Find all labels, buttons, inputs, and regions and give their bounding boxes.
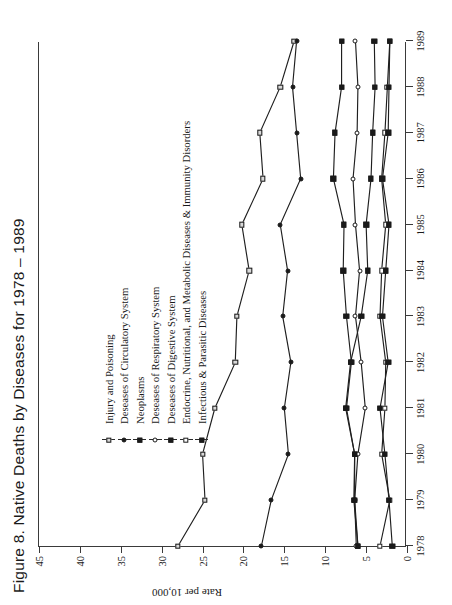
- legend-item-label: Deseases of Respiratory System: [149, 287, 161, 424]
- data-point-marker: [355, 543, 360, 548]
- legend-marker-icon: [137, 437, 142, 442]
- data-point-marker: [352, 498, 357, 503]
- data-point-marker: [278, 84, 283, 89]
- y-axis-label: Rate per 10,000: [152, 587, 222, 599]
- data-point-marker: [298, 176, 303, 181]
- data-point-marker: [352, 451, 357, 456]
- y-axis-tick: [80, 546, 81, 553]
- data-point-marker: [363, 222, 368, 227]
- data-point-marker: [348, 360, 353, 365]
- data-point-marker: [380, 176, 385, 181]
- data-point-marker: [341, 268, 346, 273]
- y-axis-tick: [162, 546, 163, 553]
- data-point-marker: [351, 497, 356, 502]
- series-line-5: [380, 41, 390, 546]
- data-point-marker: [357, 268, 362, 273]
- x-axis-tick-label: 1981: [415, 398, 426, 419]
- data-point-marker: [382, 130, 387, 135]
- data-point-marker: [382, 406, 387, 411]
- data-point-marker: [202, 497, 207, 502]
- data-point-marker: [365, 268, 370, 273]
- data-point-marker: [383, 360, 388, 365]
- data-point-marker: [260, 176, 265, 181]
- data-point-marker: [349, 360, 354, 365]
- data-point-marker: [234, 314, 239, 319]
- y-axis-tick-label: 25: [197, 556, 208, 567]
- data-point-marker: [339, 84, 344, 89]
- x-axis-tick: [406, 407, 413, 408]
- data-point-marker: [288, 360, 293, 365]
- y-axis-tick: [284, 546, 285, 553]
- x-axis-tick: [406, 86, 413, 87]
- x-axis-tick-label: 1982: [415, 352, 426, 373]
- series-line-3: [353, 41, 365, 546]
- legend-marker-icon: [106, 437, 111, 442]
- data-point-marker: [341, 222, 346, 227]
- data-point-marker: [383, 222, 388, 227]
- y-axis-tick-label: 45: [34, 556, 45, 567]
- data-point-marker: [286, 452, 291, 457]
- x-axis-tick: [406, 361, 413, 362]
- data-point-marker: [294, 39, 299, 44]
- series-line-1: [261, 41, 300, 546]
- data-point-marker: [379, 176, 384, 181]
- x-axis-tick-label: 1986: [415, 168, 426, 189]
- data-point-marker: [380, 314, 385, 319]
- data-point-marker: [355, 452, 360, 457]
- x-axis-tick-label: 1987: [415, 122, 426, 143]
- plot-area: 0510152025303540451978197919801981198219…: [38, 42, 406, 547]
- y-axis-tick-label: 5: [361, 556, 372, 561]
- y-axis-tick: [121, 546, 122, 553]
- legend-item: Deseases of Respiratory System: [148, 121, 164, 454]
- x-axis-tick-label: 1985: [415, 214, 426, 235]
- data-point-marker: [278, 222, 283, 227]
- data-point-marker: [390, 543, 395, 548]
- x-axis-tick-label: 1979: [415, 490, 426, 511]
- data-point-marker: [377, 543, 382, 548]
- x-axis-tick: [406, 545, 413, 546]
- legend-symbol: [194, 424, 210, 454]
- data-point-marker: [259, 544, 264, 549]
- x-axis-tick: [406, 224, 413, 225]
- series-polylines: [39, 41, 407, 546]
- x-axis-tick: [406, 40, 413, 41]
- data-point-marker: [370, 130, 375, 135]
- legend-item: Endocrine, Nutritional, and Metabolic Di…: [179, 121, 195, 454]
- rotated-figure-wrapper: Figure 8. Native Deaths by Diseases for …: [0, 0, 452, 605]
- data-point-marker: [372, 84, 377, 89]
- legend-symbol: [148, 424, 164, 454]
- series-layer: [39, 42, 406, 546]
- data-point-marker: [257, 130, 262, 135]
- data-point-marker: [353, 222, 358, 227]
- y-axis-tick-label: 10: [320, 556, 331, 567]
- x-axis-tick: [406, 270, 413, 271]
- data-point-marker: [382, 451, 387, 456]
- legend-marker-icon: [168, 437, 173, 442]
- x-axis-tick: [406, 178, 413, 179]
- x-axis-tick: [406, 315, 413, 316]
- data-point-marker: [344, 406, 349, 411]
- data-point-marker: [386, 84, 391, 89]
- data-point-marker: [352, 497, 357, 502]
- x-axis-line: [405, 42, 406, 546]
- data-point-marker: [343, 406, 348, 411]
- data-point-marker: [282, 406, 287, 411]
- data-point-marker: [355, 543, 360, 548]
- data-point-marker: [280, 314, 285, 319]
- data-point-marker: [269, 498, 274, 503]
- data-point-marker: [355, 130, 360, 135]
- y-axis-tick-label: 35: [115, 556, 126, 567]
- x-axis-tick-label: 1984: [415, 260, 426, 281]
- y-axis-tick: [366, 546, 367, 553]
- data-point-marker: [354, 544, 359, 549]
- data-point-marker: [294, 130, 299, 135]
- data-point-marker: [352, 451, 357, 456]
- y-axis-tick: [407, 546, 408, 553]
- chart-legend: Injury and PoisoningDeseases of Circulat…: [101, 121, 210, 454]
- x-axis-tick-label: 1988: [415, 76, 426, 97]
- data-point-marker: [344, 314, 349, 319]
- legend-symbol: [132, 424, 148, 454]
- legend-item-label: Infectious & Parasitic Diseases: [196, 291, 208, 424]
- legend-symbol: [117, 424, 133, 454]
- data-point-marker: [379, 268, 384, 273]
